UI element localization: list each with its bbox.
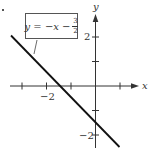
fraction-denominator: 2 [73, 28, 77, 35]
x-tick-label-neg2: −2 [40, 91, 55, 102]
x-axis-label: x [142, 80, 148, 91]
x-axis: −2 x [10, 80, 148, 102]
equation-text: y = −x − [25, 21, 71, 32]
y-axis: 2 −2 y [79, 1, 99, 148]
y-axis-arrow-icon [93, 14, 99, 22]
equation-fraction: 3 2 [72, 18, 78, 35]
plotted-line [11, 36, 120, 148]
y-axis-label: y [92, 1, 99, 12]
fraction-numerator: 3 [73, 18, 77, 25]
label-leader-line [34, 40, 37, 54]
y-tick-label-2: 2 [84, 31, 90, 42]
x-axis-arrow-icon [131, 83, 139, 89]
equation-label-box: y = −x − 3 2 [25, 13, 78, 39]
y-tick-label-neg2: −2 [79, 130, 94, 141]
